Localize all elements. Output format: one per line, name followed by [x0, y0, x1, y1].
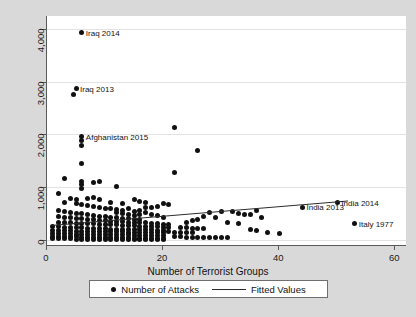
scatter-point — [97, 179, 102, 184]
scatter-point — [225, 235, 230, 240]
scatter-point — [56, 214, 61, 219]
scatter-point — [108, 206, 113, 211]
scatter-point — [143, 237, 148, 242]
y-tick-label: 4,000 — [35, 29, 46, 63]
scatter-point — [259, 215, 264, 220]
point-annotation: Iraq 2013 — [80, 84, 114, 93]
scatter-point — [114, 210, 119, 215]
scatter-point — [155, 204, 160, 209]
scatter-point — [79, 202, 84, 207]
scatter-point — [114, 184, 119, 189]
scatter-point — [190, 218, 195, 223]
scatter-point — [201, 226, 206, 231]
scatter-point — [213, 215, 218, 220]
point-annotation: Italy 1977 — [359, 219, 394, 228]
scatter-point — [74, 216, 79, 221]
scatter-point — [166, 229, 171, 234]
scatter-point — [149, 212, 154, 217]
scatter-point — [85, 237, 90, 242]
scatter-point — [74, 237, 79, 242]
scatter-point — [143, 210, 148, 215]
scatter-point — [254, 208, 259, 213]
scatter-point — [300, 205, 305, 210]
scatter-point — [137, 212, 142, 217]
scatter-point — [103, 237, 108, 242]
scatter-point — [149, 205, 154, 210]
scatter-point — [178, 234, 183, 239]
scatter-point — [236, 221, 241, 226]
scatter-point — [236, 211, 241, 216]
point-annotation: India 2013 — [306, 203, 343, 212]
scatter-point — [225, 220, 230, 225]
scatter-point — [219, 235, 224, 240]
scatter-point — [79, 237, 84, 242]
scatter-point — [277, 231, 282, 236]
scatter-point — [79, 186, 84, 191]
scatter-point — [172, 125, 177, 130]
scatter-point — [68, 215, 73, 220]
chart-legend: Number of Attacks Fitted Values — [89, 280, 328, 298]
scatter-point — [62, 200, 67, 205]
scatter-point — [230, 209, 235, 214]
scatter-point — [126, 237, 131, 242]
figure-canvas: 01,0002,0003,0004,000 0204060 Number of … — [0, 0, 416, 317]
scatter-point — [62, 215, 67, 220]
scatter-point — [68, 196, 73, 201]
scatter-point — [120, 201, 125, 206]
scatter-point — [132, 197, 137, 202]
scatter-point — [143, 205, 148, 210]
scatter-point — [254, 228, 259, 233]
scatter-point — [172, 234, 177, 239]
scatter-point — [161, 237, 166, 242]
scatter-point — [155, 237, 160, 242]
plot-frame — [46, 16, 406, 246]
scatter-point — [62, 209, 67, 214]
scatter-point — [178, 225, 183, 230]
x-tick-mark — [46, 246, 47, 250]
scatter-point — [120, 237, 125, 242]
scatter-point — [120, 211, 125, 216]
point-annotation: India 2014 — [341, 198, 378, 207]
legend-item-fitted-values: Fitted Values — [212, 284, 306, 295]
scatter-point — [91, 180, 96, 185]
scatter-point — [85, 196, 90, 201]
x-tick-label: 0 — [43, 252, 48, 263]
scatter-point — [79, 30, 84, 35]
scatter-point — [149, 237, 154, 242]
scatter-point — [132, 213, 137, 218]
scatter-point — [195, 226, 200, 231]
scatter-point — [74, 201, 79, 206]
x-tick-mark — [278, 246, 279, 250]
scatter-point — [248, 227, 253, 232]
scatter-point — [97, 237, 102, 242]
scatter-point — [190, 226, 195, 231]
scatter-point — [97, 205, 102, 210]
x-tick-label: 40 — [273, 252, 284, 263]
plot-area — [47, 16, 406, 245]
scatter-point — [56, 208, 61, 213]
scatter-point — [74, 86, 79, 91]
y-tick-label: 1,000 — [35, 187, 46, 221]
scatter-point — [248, 212, 253, 217]
scatter-point — [56, 191, 61, 196]
x-tick-label: 20 — [157, 252, 168, 263]
scatter-point — [195, 217, 200, 222]
scatter-point — [242, 212, 247, 217]
scatter-point — [207, 210, 212, 215]
scatter-point — [97, 197, 102, 202]
x-axis-title: Number of Terrorist Groups — [0, 266, 416, 277]
scatter-point — [68, 236, 73, 241]
point-annotation: Iraq 2014 — [86, 28, 120, 37]
point-annotation: Afghanistan 2015 — [86, 132, 148, 141]
scatter-point — [201, 214, 206, 219]
scatter-point — [213, 235, 218, 240]
x-tick-mark — [394, 246, 395, 250]
legend-line-icon — [212, 289, 246, 290]
scatter-point — [195, 148, 200, 153]
scatter-point — [126, 206, 131, 211]
scatter-point — [265, 230, 270, 235]
scatter-point — [114, 237, 119, 242]
scatter-point — [108, 237, 113, 242]
scatter-point — [132, 237, 137, 242]
legend-dot-icon — [111, 287, 116, 292]
